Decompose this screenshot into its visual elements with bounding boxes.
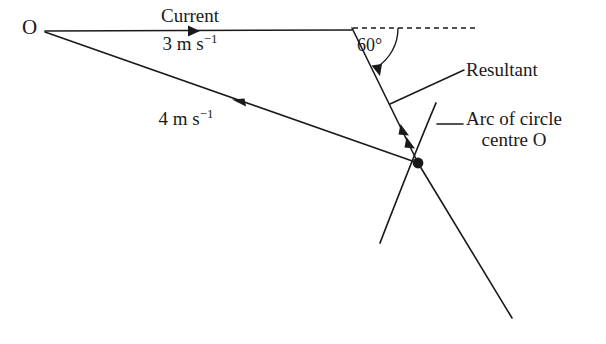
arc-label-line-1: Arc of circle [466,108,562,129]
resultant-label-leader-line [390,70,464,104]
diagram-canvas [0,0,606,344]
circle-arc-centre-o [380,103,436,243]
current-speed-label: 3 m s−1 [163,33,218,54]
angle-label: 60° [357,35,382,55]
intersection-point-dot [413,158,424,169]
current-speed-exponent: −1 [204,31,218,46]
velocity-line-extension [418,163,512,318]
arc-of-circle-label: Arc of circle centre O [466,108,562,151]
boat-speed-value: 4 m s [159,108,200,129]
arc-label-line-2: centre O [466,129,562,150]
current-speed-value: 3 m s [163,33,204,54]
vector-diagram: O Current 3 m s−1 4 m s−1 60° Resultant … [0,0,606,344]
current-label: Current [161,5,219,26]
boat-speed-label: 4 m s−1 [159,108,214,129]
boat-speed-exponent: −1 [200,106,214,121]
resultant-label: Resultant [466,59,538,80]
boat-velocity-arrowhead [232,99,246,107]
origin-label: O [22,16,37,40]
